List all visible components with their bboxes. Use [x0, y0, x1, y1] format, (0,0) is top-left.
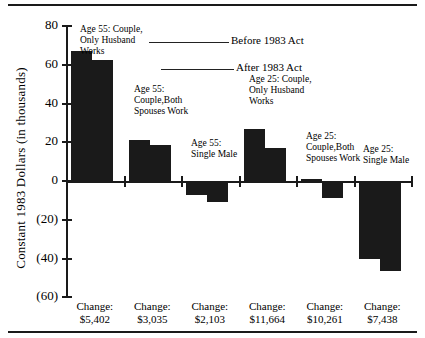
legend-label-before: Before 1983 Act: [231, 34, 304, 46]
y-tick-mark: [62, 219, 72, 221]
change-caption: Change: $11,664: [239, 300, 297, 326]
bar-after: [207, 181, 228, 202]
top-divider-rule: [8, 4, 417, 6]
change-caption: Change: $5,402: [66, 300, 124, 326]
x-tick-mark: [66, 176, 68, 187]
bar-after: [92, 60, 113, 181]
category-label: Age 55: Couple, Only Husband Works: [80, 24, 143, 57]
x-tick-mark: [124, 176, 126, 187]
x-tick-mark: [411, 176, 413, 187]
y-tick-mark: [62, 25, 72, 27]
leader-line-after: [161, 69, 234, 70]
bar-before: [186, 181, 207, 195]
y-tick-label: (40): [16, 250, 58, 266]
category-label: Age 25: Single Male: [363, 144, 409, 166]
y-tick-label: 20: [16, 133, 58, 149]
bar-after: [150, 145, 171, 181]
bar-before: [301, 179, 322, 181]
change-caption: Change: $2,103: [181, 300, 239, 326]
bar-after: [265, 148, 286, 181]
y-tick-label: 0: [16, 172, 58, 188]
bar-after: [322, 181, 343, 198]
y-tick-label: (60): [16, 288, 58, 304]
y-axis-line: [66, 26, 68, 296]
category-label: Age 55: Single Male: [191, 138, 237, 160]
bar-before: [129, 140, 150, 181]
y-tick-mark: [62, 258, 72, 260]
y-tick-label: 80: [16, 17, 58, 33]
x-tick-mark: [296, 176, 298, 187]
y-tick-label: (20): [16, 211, 58, 227]
change-captions: Change: $5,402Change: $3,035Change: $2,1…: [66, 300, 415, 328]
change-caption: Change: $7,438: [354, 300, 412, 326]
legend-label-after: After 1983 Act: [236, 61, 302, 73]
category-label: Age 25: Couple,Both Spouses Work: [306, 131, 360, 164]
chart-figure: Constant 1983 Dollars (in thousands) 806…: [0, 0, 425, 338]
bottom-divider-rule: [8, 331, 417, 333]
bar-before: [244, 129, 265, 181]
y-tick-mark: [62, 296, 72, 298]
change-caption: Change: $10,261: [296, 300, 354, 326]
bar-after: [380, 181, 401, 271]
x-tick-mark: [181, 176, 183, 187]
category-label: Age 25: Couple, Only Husband Works: [249, 74, 312, 107]
plot-area: 806040200(20)(40)(60) Age 55: Couple, On…: [66, 26, 411, 296]
leader-line-before: [149, 42, 229, 43]
x-tick-mark: [354, 176, 356, 187]
category-label: Age 55: Couple,Both Spouses Work: [134, 84, 188, 117]
y-tick-label: 60: [16, 56, 58, 72]
bar-before: [71, 51, 92, 181]
change-caption: Change: $3,035: [124, 300, 182, 326]
bar-before: [359, 181, 380, 259]
x-tick-mark: [239, 176, 241, 187]
y-tick-label: 40: [16, 95, 58, 111]
